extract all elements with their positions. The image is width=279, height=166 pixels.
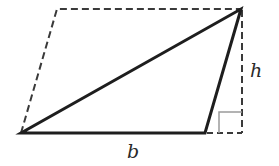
triangle (21, 9, 241, 133)
right-angle-marker (219, 112, 242, 133)
triangle-area-diagram: h b (0, 0, 279, 166)
height-label: h (250, 59, 262, 81)
base-label: b (127, 140, 139, 162)
